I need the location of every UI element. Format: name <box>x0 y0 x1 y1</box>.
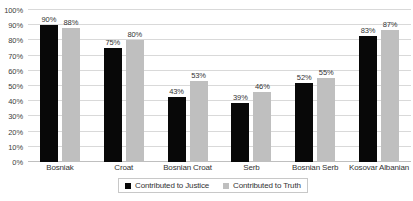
bar-slot: 52% <box>294 10 314 162</box>
bar-slot: 53% <box>189 10 209 162</box>
x-axis-category-label: Serb <box>219 163 283 177</box>
x-axis-category-label: Croat <box>92 163 156 177</box>
bar-group: 39%46% <box>219 10 283 162</box>
y-axis-tick-label: 10% <box>8 142 23 151</box>
x-axis-category-label: Bosnian Serb <box>283 163 347 177</box>
legend-swatch-icon <box>125 183 131 189</box>
bar-value-label: 39% <box>233 93 248 102</box>
legend-label: Contributed to Truth <box>233 181 301 190</box>
x-axis-category-label: Bosnian Croat <box>156 163 220 177</box>
bar[interactable]: 87% <box>381 30 399 162</box>
grouped-bar-chart: 0%10%20%30%40%50%60%70%80%90%100% 90%88%… <box>0 0 413 201</box>
bar[interactable]: 83% <box>359 36 377 162</box>
bar[interactable]: 80% <box>126 40 144 162</box>
y-axis-tick-label: 40% <box>8 97 23 106</box>
bar-group: 43%53% <box>156 10 220 162</box>
bar[interactable]: 88% <box>62 28 80 162</box>
x-axis: BosniakCroatBosnian CroatSerbBosnian Ser… <box>28 163 411 177</box>
y-axis-tick-label: 0% <box>12 158 23 167</box>
bar[interactable]: 53% <box>190 81 208 162</box>
y-axis-tick-label: 80% <box>8 36 23 45</box>
x-axis-category-label: Bosniak <box>28 163 92 177</box>
bar-group: 52%55% <box>283 10 347 162</box>
bar-slot: 88% <box>61 10 81 162</box>
bar-value-label: 43% <box>169 87 184 96</box>
bar-groups: 90%88%75%80%43%53%39%46%52%55%83%87% <box>28 10 411 162</box>
bar-slot: 55% <box>316 10 336 162</box>
legend-entry[interactable]: Contributed to Justice <box>125 181 209 190</box>
bar-value-label: 90% <box>42 15 57 24</box>
bar-value-label: 75% <box>105 38 120 47</box>
x-axis-category-label: Kosovar Albanian <box>347 163 411 177</box>
bar[interactable]: 55% <box>317 78 335 162</box>
y-axis: 0%10%20%30%40%50%60%70%80%90%100% <box>0 10 26 162</box>
bar[interactable]: 90% <box>40 25 58 162</box>
plot-area: 90%88%75%80%43%53%39%46%52%55%83%87% <box>28 10 411 162</box>
bar-slot: 75% <box>103 10 123 162</box>
bar[interactable]: 43% <box>168 97 186 162</box>
bar-value-label: 53% <box>191 71 206 80</box>
bar-value-label: 55% <box>319 68 334 77</box>
y-axis-tick-label: 30% <box>8 112 23 121</box>
chart-legend: Contributed to JusticeContributed to Tru… <box>118 178 308 193</box>
bar-slot: 46% <box>252 10 272 162</box>
bar-slot: 39% <box>230 10 250 162</box>
y-axis-tick-label: 20% <box>8 127 23 136</box>
y-axis-tick-label: 50% <box>8 82 23 91</box>
bar-slot: 43% <box>167 10 187 162</box>
bar-value-label: 52% <box>297 73 312 82</box>
bar[interactable]: 46% <box>253 92 271 162</box>
bar-group: 83%87% <box>347 10 411 162</box>
bar-slot: 80% <box>125 10 145 162</box>
legend-label: Contributed to Justice <box>135 181 209 190</box>
bar[interactable]: 52% <box>295 83 313 162</box>
bar[interactable]: 39% <box>231 103 249 162</box>
bar-value-label: 87% <box>383 20 398 29</box>
bar-value-label: 83% <box>361 26 376 35</box>
bar-slot: 83% <box>358 10 378 162</box>
bar-group: 75%80% <box>92 10 156 162</box>
bar-slot: 90% <box>39 10 59 162</box>
bar-value-label: 88% <box>64 18 79 27</box>
bar-value-label: 46% <box>255 82 270 91</box>
legend-swatch-icon <box>223 183 229 189</box>
y-axis-tick-label: 60% <box>8 66 23 75</box>
y-axis-tick-label: 90% <box>8 21 23 30</box>
bar[interactable]: 75% <box>104 48 122 162</box>
bar-value-label: 80% <box>127 30 142 39</box>
y-axis-tick-label: 100% <box>4 6 23 15</box>
bar-slot: 87% <box>380 10 400 162</box>
y-axis-tick-label: 70% <box>8 51 23 60</box>
legend-entry[interactable]: Contributed to Truth <box>223 181 301 190</box>
bar-group: 90%88% <box>28 10 92 162</box>
